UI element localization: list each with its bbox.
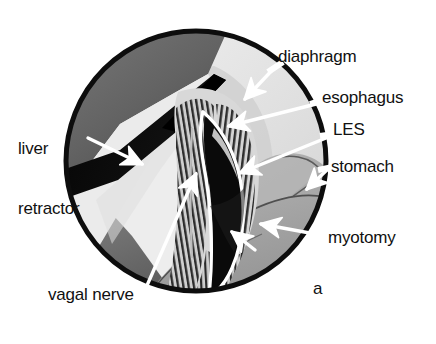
label-myotomy: myotomy: [328, 228, 396, 247]
panel-letter: a: [313, 279, 322, 299]
surgical-illustration-figure: liver retractor diaphragm esophagus LES …: [0, 0, 436, 344]
label-stomach: stomach: [331, 157, 394, 176]
label-diaphragm: diaphragm: [278, 47, 357, 66]
label-liver-retractor: liver retractor: [18, 99, 80, 259]
label-liver-retractor-line2: retractor: [18, 199, 80, 219]
label-liver-retractor-line1: liver: [18, 139, 80, 159]
label-les: LES: [333, 120, 365, 139]
label-vagal-nerve: vagal nerve: [48, 285, 134, 304]
label-esophagus: esophagus: [322, 88, 403, 107]
